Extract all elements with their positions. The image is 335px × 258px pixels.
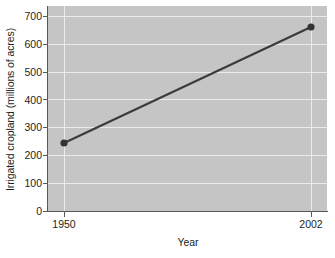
data-point-marker xyxy=(307,23,314,30)
x-axis-tick-labels: 1950 2002 xyxy=(0,218,335,232)
x-tick-label: 2002 xyxy=(281,218,335,230)
x-tick-mark xyxy=(311,212,312,217)
x-tick-label: 1950 xyxy=(34,218,94,230)
chart-figure: Irrigated cropland (millions of acres) 7… xyxy=(0,0,335,258)
y-tick-label: 500 xyxy=(18,67,42,77)
x-tick-mark xyxy=(64,212,65,217)
y-tick-label: 300 xyxy=(18,122,42,132)
plot-area xyxy=(48,6,327,211)
series-line-segment xyxy=(64,27,311,143)
y-tick-label: 400 xyxy=(18,95,42,105)
y-tick-label: 200 xyxy=(18,150,42,160)
y-axis-title: Irrigated cropland (millions of acres) xyxy=(2,3,18,216)
y-tick-label: 600 xyxy=(18,39,42,49)
y-tick-label: 700 xyxy=(18,11,42,21)
data-point-marker xyxy=(60,139,67,146)
x-axis-title: Year xyxy=(48,236,328,248)
data-series-irrigated-cropland xyxy=(48,6,327,211)
y-tick-label: 100 xyxy=(18,178,42,188)
x-axis-tick-marks xyxy=(0,212,335,217)
